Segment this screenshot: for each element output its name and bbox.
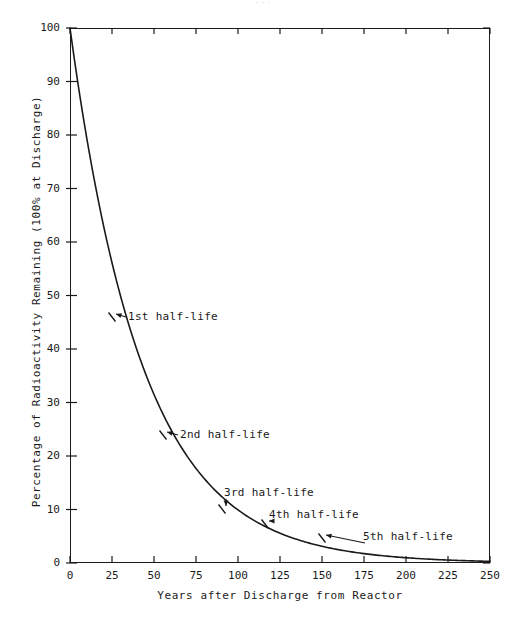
- x-tick-label: 150: [302, 570, 342, 581]
- x-axis-title: Years after Discharge from Reactor: [70, 589, 490, 602]
- annotation-label: 5th half-life: [363, 531, 453, 543]
- x-tick-label: 0: [50, 570, 90, 581]
- x-tick-label: 100: [218, 570, 258, 581]
- annotation-label: 4th half-life: [269, 509, 359, 521]
- y-tick-label: 90: [28, 76, 60, 87]
- plot-frame: [70, 28, 490, 563]
- y-tick-label: 40: [28, 343, 60, 354]
- x-tick-label: 225: [428, 570, 468, 581]
- x-tick-label: 200: [386, 570, 426, 581]
- y-tick-label: 50: [28, 290, 60, 301]
- y-tick-label: 0: [28, 557, 60, 568]
- y-tick-label: 80: [28, 129, 60, 140]
- y-tick-label: 70: [28, 183, 60, 194]
- y-tick-label: 100: [28, 22, 60, 33]
- x-tick-label: 250: [470, 570, 510, 581]
- y-tick-label: 60: [28, 236, 60, 247]
- annotation-label: 1st half-life: [128, 311, 218, 323]
- annotation-label: 3rd half-life: [224, 487, 314, 499]
- page-artifact: ···: [255, 0, 272, 8]
- x-tick-label: 125: [260, 570, 300, 581]
- x-tick-label: 175: [344, 570, 384, 581]
- x-tick-label: 50: [134, 570, 174, 581]
- y-tick-label: 20: [28, 450, 60, 461]
- x-tick-label: 75: [176, 570, 216, 581]
- x-tick-label: 25: [92, 570, 132, 581]
- y-tick-label: 30: [28, 397, 60, 408]
- y-axis-title: Percentage of Radioactivity Remaining (1…: [30, 92, 43, 512]
- y-tick-label: 10: [28, 504, 60, 515]
- figure-canvas: ··· Percentage of Radioactivity Remainin…: [0, 0, 519, 628]
- annotation-label: 2nd half-life: [180, 429, 270, 441]
